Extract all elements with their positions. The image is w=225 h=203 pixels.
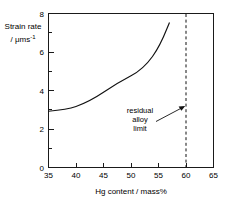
chart-figure: 8 6 4 2 0 35 40 45 50 55 60 65 Hg conten… — [0, 0, 225, 203]
y-axis-title-unit: / μms — [10, 35, 30, 44]
strain-rate-vs-hg-content-chart: 8 6 4 2 0 35 40 45 50 55 60 65 Hg conten… — [0, 0, 225, 203]
plot-frame — [49, 14, 214, 168]
x-axis-title: Hg content / mass% — [95, 187, 167, 196]
x-tick-label-45: 45 — [99, 171, 108, 180]
strain-rate-curve — [49, 23, 170, 112]
y-tick-labels: 8 6 4 2 0 — [40, 10, 45, 173]
x-tick-label-40: 40 — [72, 171, 81, 180]
x-tick-labels: 35 40 45 50 55 60 65 — [44, 171, 218, 180]
y-axis-title: Strain rate / μms-1 — [5, 22, 42, 44]
x-tick-label-35: 35 — [44, 171, 53, 180]
y-axis-title-exponent: -1 — [30, 34, 36, 40]
y-tick-label-4: 4 — [40, 87, 45, 96]
y-axis-title-line1: Strain rate — [5, 22, 42, 31]
y-axis-major-ticks — [49, 14, 54, 168]
annotation-line-alloy: alloy — [132, 115, 148, 124]
y-axis-title-line2: / μms-1 — [10, 34, 36, 44]
y-tick-label-8: 8 — [40, 10, 45, 19]
y-tick-label-2: 2 — [40, 125, 45, 134]
annotation-arrow-icon — [156, 106, 185, 122]
annotation-line-limit: limit — [133, 124, 147, 133]
x-axis-major-ticks — [49, 163, 214, 168]
residual-alloy-limit-annotation: residual alloy limit — [127, 106, 154, 133]
x-tick-label-55: 55 — [154, 171, 163, 180]
x-tick-label-60: 60 — [182, 171, 191, 180]
x-tick-label-65: 65 — [209, 171, 218, 180]
annotation-line-residual: residual — [127, 106, 154, 115]
y-tick-label-6: 6 — [40, 48, 45, 57]
x-tick-label-50: 50 — [127, 171, 136, 180]
